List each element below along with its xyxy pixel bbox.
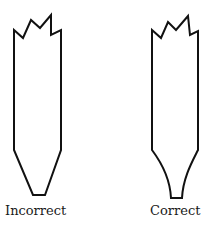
tip-comparison-diagram (0, 0, 209, 225)
incorrect-tip-shape (14, 15, 61, 195)
correct-tip-shape (152, 16, 198, 198)
incorrect-label: Incorrect (5, 203, 66, 218)
correct-label: Correct (150, 203, 200, 218)
